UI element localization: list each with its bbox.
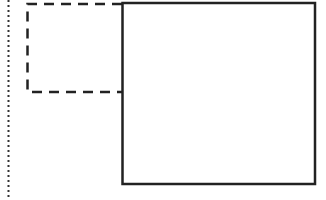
dashed-box <box>28 4 123 92</box>
diagram-canvas <box>0 0 326 200</box>
solid-box <box>123 3 316 184</box>
